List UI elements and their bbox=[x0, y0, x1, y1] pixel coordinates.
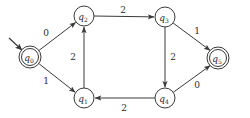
edge-label-q4-q1: 2 bbox=[121, 103, 127, 113]
automaton-canvas: q0 q2 q3 q1 q4 q5 0 1 2 bbox=[0, 0, 250, 118]
start-arrow bbox=[9, 38, 22, 50]
state-q2[interactable]: q2 bbox=[74, 6, 94, 26]
state-q0[interactable]: q0 bbox=[19, 46, 41, 68]
automaton-diagram: q0 q2 q3 q1 q4 q5 0 1 2 bbox=[0, 0, 250, 118]
edge-label-q4-q5: 0 bbox=[194, 80, 200, 90]
state-q5[interactable]: q5 bbox=[207, 47, 229, 69]
state-q3[interactable]: q3 bbox=[155, 7, 175, 27]
edge-label-q3-q4: 2 bbox=[170, 52, 176, 62]
edge-q3-q5 bbox=[173, 23, 210, 50]
edge-q4-q5 bbox=[173, 66, 210, 93]
edge-label-q2-q3: 2 bbox=[120, 5, 126, 15]
edge-label-q0-q1: 1 bbox=[43, 76, 49, 86]
edge-label-q1-q2: 2 bbox=[70, 52, 76, 62]
state-q4[interactable]: q4 bbox=[155, 88, 175, 108]
edge-q2-q3 bbox=[94, 16, 154, 17]
state-q1[interactable]: q1 bbox=[74, 88, 94, 108]
edge-label-q3-q5: 1 bbox=[194, 26, 200, 36]
edge-label-q0-q2: 0 bbox=[43, 28, 49, 38]
